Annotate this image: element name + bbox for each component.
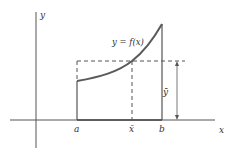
- xbar-label: x̄: [129, 124, 134, 134]
- mean-value-diagram: y x y = f(x) a b x̄ ȳ: [0, 0, 239, 155]
- x-axis-label: x: [219, 125, 224, 135]
- y-axis-label: y: [39, 10, 46, 20]
- b-label: b: [159, 124, 165, 134]
- diagram-svg: y x y = f(x) a b x̄ ȳ: [0, 0, 239, 155]
- ybar-arrow-down: [175, 115, 179, 120]
- curve-label: y = f(x): [111, 37, 144, 47]
- curve-f: [77, 24, 162, 81]
- ybar-arrow-up: [175, 61, 179, 66]
- ybar-label: ȳ: [162, 87, 169, 97]
- a-label: a: [74, 124, 79, 134]
